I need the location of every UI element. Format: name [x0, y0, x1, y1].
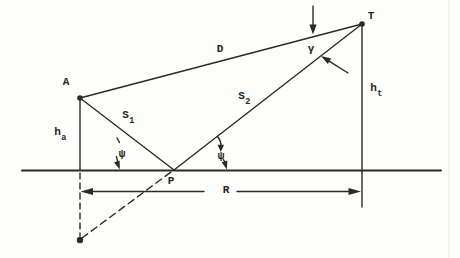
s1-label: S1 [122, 110, 134, 124]
incident-direct-arrowhead [309, 25, 316, 35]
grazing-angle-left-arrowhead [114, 161, 120, 170]
grazing-angle-left-arc-tick [117, 138, 120, 143]
antenna-point-dot [77, 95, 83, 101]
range-arrowhead-right [349, 188, 362, 195]
target-height-label-sub: t [377, 89, 382, 99]
direct-path-line [80, 24, 362, 98]
s1-label-base: S [122, 109, 129, 121]
reflected-path-s2-line [174, 24, 362, 170]
diagram-canvas [0, 0, 460, 258]
target-point-dot [359, 21, 365, 27]
antenna-height-label-base: h [54, 126, 61, 138]
antenna-height-label: ha [54, 127, 66, 141]
gamma-angle-label: γ [308, 44, 315, 55]
image-ray-dashed-line [82, 171, 173, 239]
s2-label-base: S [238, 90, 245, 102]
image-point-dot [77, 237, 83, 243]
direct-path-label: D [217, 44, 224, 55]
multipath-geometry-figure: A T P D γ S1 S2 ha ht ψ ψ R [0, 0, 460, 258]
range-arrowhead-left [81, 188, 94, 195]
grazing-angle-right-lower-arrowhead [222, 161, 228, 170]
target-height-label: ht [370, 83, 382, 97]
psi-right-label: ψ [218, 151, 225, 162]
psi-left-label: ψ [119, 149, 126, 160]
antenna-point-label: A [63, 77, 70, 88]
incident-reflected-arrowhead [321, 56, 331, 64]
antenna-height-label-sub: a [61, 133, 66, 143]
incident-reflected-arrow-shaft [330, 61, 349, 73]
reflection-point-label: P [168, 176, 175, 187]
s2-label: S2 [238, 91, 250, 105]
target-height-label-base: h [370, 82, 377, 94]
range-label: R [223, 185, 230, 196]
s1-label-sub: 1 [129, 116, 134, 126]
s2-label-sub: 2 [245, 97, 250, 107]
target-point-label: T [368, 11, 375, 22]
